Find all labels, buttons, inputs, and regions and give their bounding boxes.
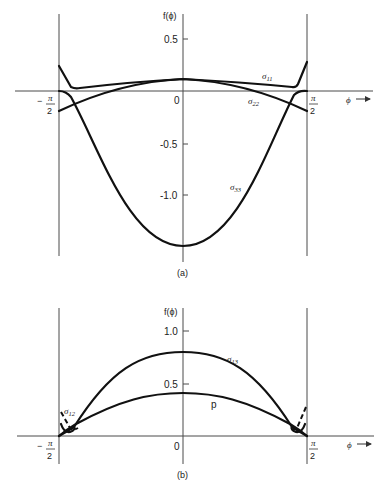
y-tick-label-a-neg1.0: -1.0 [160, 190, 178, 201]
x-tick-label-a-pi-over-2: π 2 [309, 93, 318, 116]
origin-label-b: 0 [174, 441, 180, 452]
label-sigma13: σ13 [227, 354, 239, 365]
chart-panel-b: f(ϕ) 1.0 0.5 0 − π 2 π 2 ϕ σ13 [17, 307, 374, 480]
svg-text:π: π [311, 93, 316, 103]
x-axis-label-b: ϕ [347, 440, 371, 450]
svg-text:−: − [37, 441, 42, 451]
svg-text:ϕ: ϕ [346, 95, 351, 105]
y-tick-label-a-0.5: 0.5 [164, 34, 178, 45]
label-sigma11: σ11 [262, 71, 272, 82]
label-sigma33: σ33 [230, 182, 242, 193]
origin-label-a: 0 [174, 95, 180, 106]
svg-text:2: 2 [310, 451, 315, 461]
svg-text:π: π [48, 438, 53, 448]
svg-text:2: 2 [47, 106, 52, 116]
x-axis-label-a: ϕ [346, 95, 370, 105]
label-sigma22: σ22 [248, 96, 260, 107]
x-tick-label-b-neg-pi-over-2: − π 2 [37, 438, 55, 461]
y-axis-label-b: f(ϕ) [164, 307, 178, 317]
svg-text:2: 2 [310, 106, 315, 116]
label-sigma12: σ12 [64, 406, 76, 417]
svg-text:π: π [48, 93, 53, 103]
y-tick-label-b-1.0: 1.0 [164, 326, 178, 337]
y-axis-label-a: f(ϕ) [163, 11, 177, 21]
y-tick-label-a-neg0.5: -0.5 [160, 139, 178, 150]
y-tick-label-b-0.5: 0.5 [164, 379, 178, 390]
x-tick-label-b-pi-over-2: π 2 [309, 438, 318, 461]
panel-label-b: (b) [177, 470, 188, 480]
svg-text:π: π [311, 438, 316, 448]
label-p: p [211, 399, 217, 410]
x-tick-label-a-neg-pi-over-2: − π 2 [37, 93, 55, 116]
svg-text:−: − [37, 96, 42, 106]
panel-label-a: (a) [177, 268, 188, 278]
chart-panel-a: f(ϕ) 0.5 -0.5 -1.0 0 − π 2 π 2 ϕ σ11 [15, 11, 373, 278]
figure: f(ϕ) 0.5 -0.5 -1.0 0 − π 2 π 2 ϕ σ11 [0, 0, 390, 493]
svg-text:ϕ: ϕ [347, 440, 352, 450]
svg-text:2: 2 [47, 451, 52, 461]
